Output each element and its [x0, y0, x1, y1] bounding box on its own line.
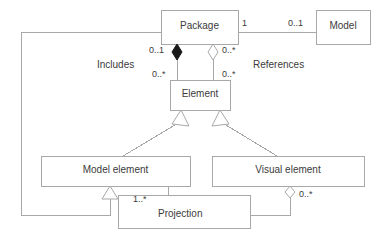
generalization-triangle-model-element-icon [172, 110, 189, 126]
connector-model-element-generalization [123, 122, 180, 156]
aggregation-diamond-references-icon [208, 44, 218, 60]
class-box-element[interactable] [170, 80, 230, 110]
generalization-triangle-package-icon [102, 186, 118, 199]
diagram-canvas [0, 0, 384, 233]
class-box-model[interactable] [316, 10, 370, 44]
class-box-visual-element[interactable] [212, 156, 364, 186]
connector-projection-visual-element [250, 198, 290, 215]
generalization-triangle-visual-element-icon [212, 110, 229, 126]
connector-visual-element-generalization [221, 122, 277, 156]
composition-diamond-icon [172, 44, 182, 60]
connector-package-generalization [21, 32, 161, 215]
class-box-package[interactable] [161, 10, 238, 44]
aggregation-diamond-projection-icon [285, 186, 295, 198]
uml-class-diagram: Package Model Element Model element Visu… [0, 0, 384, 233]
class-box-projection[interactable] [118, 195, 250, 228]
class-box-model-element[interactable] [41, 156, 190, 186]
